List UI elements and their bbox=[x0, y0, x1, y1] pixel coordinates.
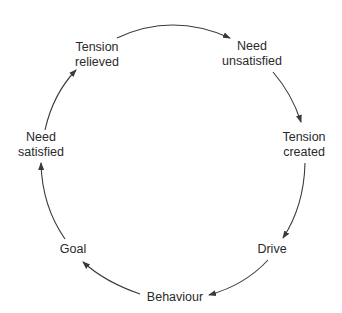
node-tension-created: Tension created bbox=[282, 130, 325, 160]
arrow-tension-created-to-drive bbox=[283, 163, 305, 238]
node-tension-relieved: Tension relieved bbox=[75, 40, 119, 70]
arrow-goal-to-need-satisfied bbox=[41, 163, 65, 239]
arrow-tension-relieved-to-need-unsatisfied bbox=[117, 25, 230, 38]
node-label-line1: Need bbox=[18, 130, 64, 145]
node-label-line2: relieved bbox=[75, 55, 119, 70]
node-label: Behaviour bbox=[147, 290, 203, 305]
node-label-line2: unsatisfied bbox=[222, 54, 282, 69]
motivation-cycle-diagram: Tension relieved Need unsatisfied Tensio… bbox=[0, 0, 342, 313]
node-need-unsatisfied: Need unsatisfied bbox=[222, 39, 282, 69]
arrow-need-satisfied-to-tension-relieved bbox=[45, 70, 76, 130]
arrow-behaviour-to-goal bbox=[83, 262, 140, 294]
node-label-line2: created bbox=[282, 145, 325, 160]
node-drive: Drive bbox=[257, 242, 286, 257]
node-label-line1: Need bbox=[222, 39, 282, 54]
node-need-satisfied: Need satisfied bbox=[18, 130, 64, 160]
node-behaviour: Behaviour bbox=[147, 290, 203, 305]
arrow-drive-to-behaviour bbox=[209, 260, 268, 295]
node-label-line1: Tension bbox=[75, 40, 119, 55]
node-label: Goal bbox=[60, 242, 86, 257]
arrow-need-unsatisfied-to-tension-created bbox=[273, 72, 301, 122]
node-goal: Goal bbox=[60, 242, 86, 257]
node-label-line2: satisfied bbox=[18, 145, 64, 160]
node-label-line1: Tension bbox=[282, 130, 325, 145]
node-label: Drive bbox=[257, 242, 286, 257]
